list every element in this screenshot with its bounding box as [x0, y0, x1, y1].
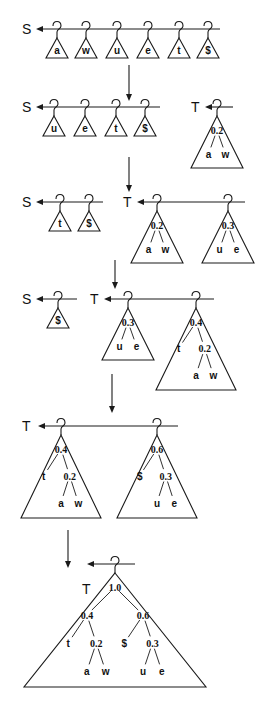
list-T: T0.2aw0.3ue [123, 194, 254, 263]
leaf-symbol: a [84, 666, 90, 677]
hanger-hook-icon [57, 419, 65, 436]
leaf-symbol: a [54, 45, 60, 56]
leaf-symbol: e [145, 45, 151, 56]
weight-label: 0.2 [198, 343, 211, 354]
list-label: T [123, 194, 132, 210]
leaf-symbol: w [101, 666, 110, 677]
leaf-node: $ [78, 195, 100, 232]
hanger-hook-icon [153, 195, 161, 212]
subtree: 1.00.4t0.2aw0.6$0.3ue [24, 557, 206, 688]
leaf-symbol: u [140, 666, 146, 677]
leaf-symbol: w [208, 370, 217, 381]
leaf-node: w [75, 22, 97, 59]
hanger-hook-icon [112, 100, 120, 117]
leaf-node: u [43, 100, 65, 137]
hanger-hook-icon [53, 22, 61, 39]
leaf-symbol: a [206, 149, 212, 160]
list-label: T [191, 99, 200, 115]
stage-6: T1.00.4t0.2aw0.6$0.3ue [24, 557, 206, 688]
weight-label: 0.3 [122, 317, 135, 328]
step-arrow [112, 260, 118, 289]
subtree: 0.3ue [202, 195, 254, 264]
list-T: T0.4t0.2aw0.6$0.3ue [21, 418, 197, 518]
list-label: T [22, 418, 31, 434]
subtree: 0.4t0.2aw [156, 292, 236, 391]
leaf-symbol: a [146, 244, 152, 255]
leaf-symbol: w [161, 244, 170, 255]
arrowhead-left-icon [36, 104, 43, 110]
weight-label: 0.2 [90, 638, 103, 649]
hanger-hook-icon [204, 22, 212, 39]
arrow-down-icon [109, 406, 115, 413]
leaf-symbol: w [81, 45, 90, 56]
hanger-hook-icon [224, 195, 232, 212]
leaf-node: t [49, 195, 71, 232]
leaf-symbol: $ [55, 315, 61, 326]
leaf-node: t [105, 100, 127, 137]
leaf-symbol: e [172, 498, 178, 509]
arrowhead-left-icon [87, 561, 94, 567]
list-S: Sawuet$ [22, 21, 220, 58]
step-arrow [126, 65, 132, 101]
subtree: 0.4t0.2aw [21, 419, 101, 519]
weight-label: 0.3 [146, 638, 159, 649]
weight-label: 0.2 [63, 471, 76, 482]
list-label: S [22, 21, 31, 37]
leaf-symbol: $ [205, 45, 211, 56]
hanger-hook-icon [141, 100, 149, 117]
hanger-hook-icon [81, 100, 89, 117]
leaf-symbol: e [234, 244, 240, 255]
arrowhead-left-icon [205, 104, 212, 110]
hanger-hook-icon [192, 292, 200, 309]
hanger-hook-icon [50, 100, 58, 117]
list-T: T0.2aw [191, 99, 243, 168]
arrow-down-icon [126, 94, 132, 101]
arrow-down-icon [65, 561, 71, 568]
diagram-root: Sawuet$Suet$T0.2awSt$T0.2aw0.3ueS$T0.3ue… [21, 21, 254, 687]
step-arrow [109, 374, 115, 413]
leaf-node: $ [134, 100, 156, 137]
leaf-symbol: e [134, 341, 140, 352]
leaf-symbol: e [82, 123, 88, 134]
leaf-symbol: w [73, 498, 82, 509]
hanger-hook-icon [56, 195, 64, 212]
leaf-symbol: $ [86, 218, 92, 229]
weight-label: 0.3 [222, 220, 235, 231]
subtree-triangle [131, 211, 183, 263]
leaf-node: e [137, 22, 159, 59]
list-label: T [82, 581, 91, 597]
huffman-diagram: Sawuet$Suet$T0.2awSt$T0.2aw0.3ueS$T0.3ue… [0, 0, 269, 704]
arrowhead-left-icon [137, 199, 144, 205]
leaf-node: a [46, 22, 68, 59]
leaf-symbol: w [221, 149, 230, 160]
leaf-symbol: u [216, 244, 222, 255]
weight-label: 0.6 [137, 610, 150, 621]
subtree: 0.6$0.3ue [117, 419, 197, 519]
leaf-symbol: $ [142, 123, 148, 134]
hanger-hook-icon [144, 22, 152, 39]
stage-3: St$T0.2aw0.3ue [22, 194, 254, 263]
leaf-symbol: $ [122, 638, 128, 649]
subtree-triangle [202, 211, 254, 263]
arrowhead-left-icon [38, 423, 45, 429]
subtree: 0.2aw [131, 195, 183, 264]
arrowhead-left-icon [36, 26, 43, 32]
hanger-hook-icon [175, 22, 183, 39]
list-label: T [90, 291, 99, 307]
weight-label: 0.4 [55, 444, 68, 455]
arrowhead-left-icon [104, 296, 111, 302]
arrow-down-icon [126, 185, 132, 192]
step-arrow [126, 157, 132, 192]
hanger-hook-icon [124, 292, 132, 309]
hanger-hook-icon [82, 22, 90, 39]
stage-5: T0.4t0.2aw0.6$0.3ue [21, 418, 197, 518]
hanger-hook-icon [54, 292, 62, 309]
hanger-hook-icon [111, 557, 119, 574]
subtree-triangle [102, 308, 154, 360]
stage-4: S$T0.3ue0.4t0.2aw [22, 291, 236, 390]
list-label: S [22, 291, 31, 307]
stage-1: Sawuet$ [22, 21, 220, 58]
leaf-symbol: u [116, 341, 122, 352]
weight-label: 0.6 [151, 444, 164, 455]
hanger-hook-icon [113, 22, 121, 39]
